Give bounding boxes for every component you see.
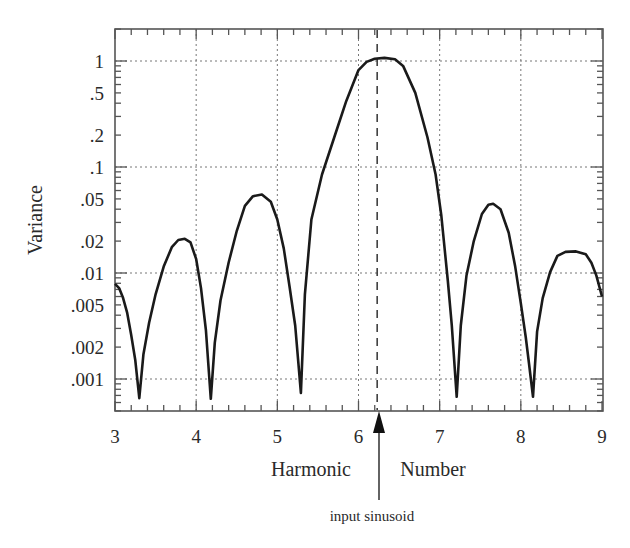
grid-lines xyxy=(115,29,603,411)
y-tick-label: .005 xyxy=(71,295,104,316)
x-tick-label: 5 xyxy=(273,426,283,447)
input-sinusoid-label: input sinusoid xyxy=(330,508,415,524)
y-tick-labels: 1.5.2.1.05.02.01.005.002.001 xyxy=(71,51,104,390)
x-tick-label: 6 xyxy=(354,426,364,447)
x-tick-label: 9 xyxy=(597,426,607,447)
y-tick-label: .01 xyxy=(80,263,104,284)
y-tick-label: .002 xyxy=(71,337,104,358)
y-tick-label: .001 xyxy=(71,369,104,390)
y-tick-label: .05 xyxy=(80,189,104,210)
x-tick-label: 4 xyxy=(191,426,201,447)
x-tick-label: 7 xyxy=(435,426,445,447)
variance-chart: 3456789 1.5.2.1.05.02.01.005.002.001 Var… xyxy=(0,0,630,548)
x-axis-title-right: Number xyxy=(400,458,466,480)
arrowhead-icon xyxy=(373,411,385,433)
y-tick-label: .5 xyxy=(90,83,104,104)
x-tick-label: 3 xyxy=(110,426,120,447)
y-tick-label: .1 xyxy=(90,157,104,178)
y-tick-label: .2 xyxy=(90,125,104,146)
x-tick-label: 8 xyxy=(516,426,526,447)
x-axis-title-left: Harmonic xyxy=(271,458,351,480)
y-tick-label: .02 xyxy=(80,231,104,252)
y-tick-label: 1 xyxy=(95,51,105,72)
y-axis-title: Variance xyxy=(24,185,46,255)
input-sinusoid-arrow xyxy=(373,411,385,500)
x-tick-labels: 3456789 xyxy=(110,426,607,447)
